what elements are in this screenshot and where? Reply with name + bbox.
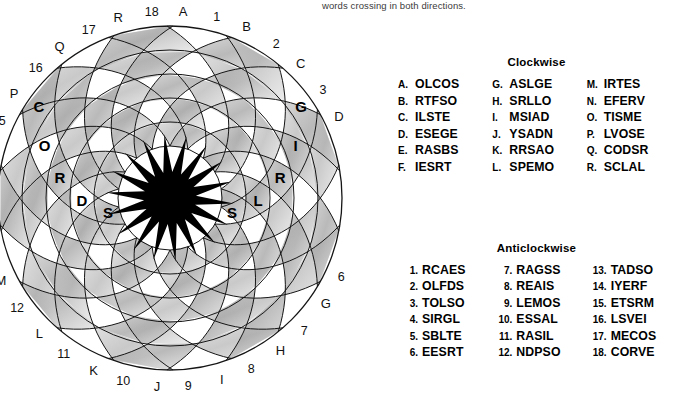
- clockwise-column-3: M.IRTESN.EFERVO.TISMEP.LVOSEQ.CODSRR.SCL…: [587, 77, 675, 174]
- word-entry-text: RASBS: [415, 143, 459, 157]
- rim-number-6[interactable]: 6: [338, 270, 345, 284]
- word-entry-text: RCAES: [422, 263, 466, 277]
- word-entry[interactable]: 18.CORVE: [587, 345, 675, 359]
- word-entry[interactable]: 16.LSVEI: [587, 312, 675, 326]
- word-entry-key: H.: [492, 96, 509, 107]
- word-entry[interactable]: C.ILSTE: [398, 110, 486, 124]
- rim-number-1[interactable]: 1: [213, 10, 220, 24]
- word-entry-text: OLCOS: [415, 77, 459, 91]
- word-entry-text: LEMOS: [516, 296, 560, 310]
- word-entry[interactable]: Q.CODSR: [587, 143, 675, 157]
- word-entry-text: ESSAL: [516, 312, 558, 326]
- rim-number-16[interactable]: 16: [29, 61, 43, 75]
- rim-number-9[interactable]: 9: [185, 379, 192, 393]
- word-entry[interactable]: M.IRTES: [587, 77, 675, 91]
- word-entry[interactable]: 1.RCAES: [398, 263, 486, 277]
- rim-number-8[interactable]: 8: [248, 362, 255, 376]
- word-entry-text: ILSTE: [415, 110, 450, 124]
- word-entry[interactable]: 14.IYERF: [587, 279, 675, 293]
- word-entry-key: Q.: [587, 145, 604, 156]
- word-entry[interactable]: L.SPEMO: [492, 160, 580, 174]
- rim-letter-D[interactable]: D: [334, 109, 343, 124]
- word-entry[interactable]: 3.TOLSO: [398, 296, 486, 310]
- word-entry[interactable]: B.RTFSO: [398, 94, 486, 108]
- word-entry[interactable]: H.SRLLO: [492, 94, 580, 108]
- word-entry-key: 5.: [398, 331, 422, 342]
- word-entry-text: LSVEI: [611, 312, 647, 326]
- word-entry[interactable]: K.RRSAO: [492, 143, 580, 157]
- rim-letter-B[interactable]: B: [242, 19, 251, 34]
- rim-number-18[interactable]: 18: [145, 5, 159, 19]
- word-entry-text: CODSR: [604, 143, 649, 157]
- word-entry[interactable]: F.IESRT: [398, 160, 486, 174]
- word-entry[interactable]: R.SCLAL: [587, 160, 675, 174]
- word-entry[interactable]: 5.SBLTE: [398, 329, 486, 343]
- word-entry[interactable]: 4.SIRGL: [398, 312, 486, 326]
- word-entry-text: EFERV: [604, 94, 645, 108]
- rim-letter-Q[interactable]: Q: [54, 39, 64, 54]
- rim-letter-M[interactable]: M: [0, 273, 6, 288]
- rim-number-2[interactable]: 2: [273, 37, 280, 51]
- puzzle-cell[interactable]: [94, 172, 125, 201]
- word-entry[interactable]: N.EFERV: [587, 94, 675, 108]
- word-entry[interactable]: G.ASLGE: [492, 77, 580, 91]
- clockwise-column-2: G.ASLGEH.SRLLOI.MSIADJ.YSADNK.RRSAOL.SPE…: [492, 77, 580, 174]
- word-entry-text: TOLSO: [422, 296, 465, 310]
- word-entry-key: C.: [398, 112, 415, 123]
- word-entry[interactable]: A.OLCOS: [398, 77, 486, 91]
- word-entry-text: REAIS: [516, 279, 554, 293]
- word-entry[interactable]: 15.ETSRM: [587, 296, 675, 310]
- circular-word-puzzle[interactable]: CORDSSLRIG A1B2C3D4E5F6G7H8I9J10K11L12M1…: [0, 0, 346, 398]
- rim-letter-G[interactable]: G: [321, 296, 331, 311]
- word-entry[interactable]: 8.REAIS: [492, 279, 580, 293]
- word-entry[interactable]: 2.OLFDS: [398, 279, 486, 293]
- word-entry[interactable]: D.ESEGE: [398, 127, 486, 141]
- filled-letter-cw-0: C: [33, 98, 44, 115]
- rim-letter-A[interactable]: A: [179, 4, 188, 19]
- word-entry-key: E.: [398, 145, 415, 156]
- word-entry[interactable]: P.LVOSE: [587, 127, 675, 141]
- anticlockwise-grid: 1.RCAES2.OLFDS3.TOLSO4.SIRGL5.SBLTE6.EES…: [398, 263, 675, 360]
- rim-letter-R[interactable]: R: [114, 10, 123, 25]
- rim-number-17[interactable]: 17: [82, 23, 96, 37]
- rim-letter-L[interactable]: L: [36, 326, 43, 341]
- rim-letter-H[interactable]: H: [276, 343, 285, 358]
- rim-number-15[interactable]: 15: [0, 114, 6, 128]
- filled-letter-acw-0: S: [227, 204, 237, 221]
- rim-letter-K[interactable]: K: [89, 363, 98, 378]
- rim-number-3[interactable]: 3: [319, 83, 326, 97]
- word-entry[interactable]: 9.LEMOS: [492, 296, 580, 310]
- anticlockwise-column-3: 13.TADSO14.IYERF15.ETSRM16.LSVEI17.MECOS…: [587, 263, 675, 360]
- word-entry-text: SBLTE: [422, 329, 462, 343]
- word-entry-key: J.: [492, 129, 509, 140]
- filled-letter-cw-3: D: [77, 192, 88, 209]
- word-entry-text: TADSO: [611, 263, 654, 277]
- rim-letter-P[interactable]: P: [10, 86, 19, 101]
- word-entry[interactable]: 11.RASIL: [492, 329, 580, 343]
- rim-number-12[interactable]: 12: [10, 301, 24, 315]
- word-entry[interactable]: 12.NDPSO: [492, 345, 580, 359]
- word-entry[interactable]: 6.EESRT: [398, 345, 486, 359]
- clockwise-grid: A.OLCOSB.RTFSOC.ILSTED.ESEGEE.RASBSF.IES…: [398, 77, 675, 174]
- word-entry[interactable]: I.MSIAD: [492, 110, 580, 124]
- rim-letter-I[interactable]: I: [220, 372, 224, 387]
- word-entry-key: G.: [492, 79, 509, 90]
- rim-letter-C[interactable]: C: [296, 56, 305, 71]
- word-entry[interactable]: O.TISME: [587, 110, 675, 124]
- rim-number-10[interactable]: 10: [116, 374, 130, 388]
- filled-letter-acw-1: L: [253, 192, 262, 209]
- word-entry[interactable]: 13.TADSO: [587, 263, 675, 277]
- word-entry[interactable]: 17.MECOS: [587, 329, 675, 343]
- word-entry[interactable]: 10.ESSAL: [492, 312, 580, 326]
- word-entry-text: IYERF: [611, 279, 648, 293]
- word-entry[interactable]: 7.RAGSS: [492, 263, 580, 277]
- rim-letter-J[interactable]: J: [154, 379, 161, 394]
- word-entry[interactable]: E.RASBS: [398, 143, 486, 157]
- word-entry-key: 6.: [398, 347, 422, 358]
- rim-number-7[interactable]: 7: [301, 324, 308, 338]
- word-entry[interactable]: J.YSADN: [492, 127, 580, 141]
- anticlockwise-title: Anticlockwise: [398, 242, 675, 254]
- word-entry-key: 17.: [587, 331, 611, 342]
- rim-number-11[interactable]: 11: [57, 347, 70, 361]
- word-entry-text: SRLLO: [509, 94, 551, 108]
